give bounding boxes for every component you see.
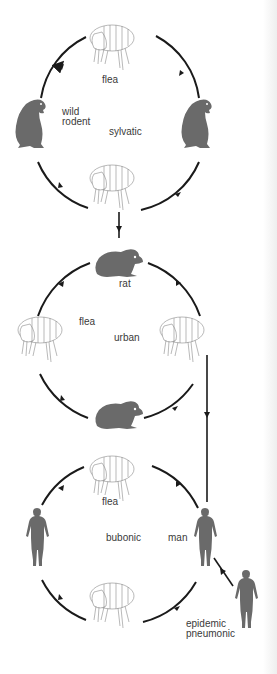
arrow-head	[58, 182, 63, 188]
wild-rodent-icon	[16, 100, 46, 149]
arc-bubonic-top-right	[152, 466, 198, 508]
rat-icon	[95, 401, 143, 429]
arrow-head	[179, 70, 184, 76]
arrow-head	[58, 485, 64, 491]
vector-label: flea	[102, 496, 118, 507]
vector-label: flea	[79, 316, 95, 327]
arc-sylvatic-bottom-left	[38, 162, 88, 208]
human-icon	[26, 508, 49, 566]
wild-rodent-icon	[182, 100, 212, 149]
cycle-label: urban	[114, 332, 140, 343]
arrow-head	[60, 395, 65, 401]
arrow-head	[58, 594, 63, 600]
arc-bubonic-bottom-right	[143, 582, 196, 622]
host-label: man	[168, 532, 187, 543]
cycle-label: bubonic	[106, 532, 141, 543]
flea-icon	[160, 317, 204, 362]
arc-urban-bottom-left	[40, 374, 88, 418]
cycle-label: sylvatic	[109, 126, 142, 137]
flea-icon	[90, 165, 134, 210]
human-icon	[194, 508, 217, 566]
cycle-sylvatic	[16, 25, 212, 210]
vector-label: flea	[102, 74, 118, 85]
arrow-head	[172, 406, 178, 411]
rat-icon	[95, 249, 143, 277]
human-icon	[235, 570, 258, 628]
flea-icon	[18, 317, 62, 362]
host-label-line2: rodent	[62, 116, 90, 127]
arc-urban-bottom-right	[144, 384, 193, 418]
host-label: rat	[119, 278, 131, 289]
flea-icon	[90, 583, 134, 628]
arc-urban-top-left	[38, 263, 90, 316]
arrow-head	[204, 412, 210, 418]
cycle-urban	[18, 249, 204, 429]
arrow-head	[58, 64, 64, 70]
arc-urban-top-right	[148, 263, 200, 316]
arc-sylvatic-top-left	[41, 37, 86, 98]
branch-label-line2: pneumonic	[186, 628, 235, 639]
arc-sylvatic-bottom-right	[141, 162, 199, 210]
flea-icon	[90, 25, 134, 70]
arc-bubonic-bottom-left	[42, 580, 86, 620]
arc-sylvatic-top-right	[156, 36, 199, 98]
flea-icon	[90, 456, 134, 501]
arrow-head	[116, 226, 122, 232]
